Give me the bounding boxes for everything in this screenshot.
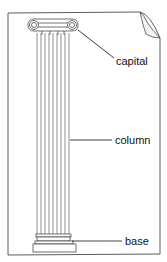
capital-label: capital [116,56,148,67]
base-shape [33,234,76,252]
column-label: column [115,135,150,146]
base-label: base [125,236,149,247]
column-diagram [0,0,167,262]
